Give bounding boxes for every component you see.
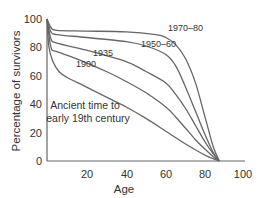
y-tick-60: 60: [30, 70, 42, 82]
label-ancient-line1: Ancient time to: [50, 99, 120, 111]
x-tick-80: 80: [199, 168, 211, 180]
y-tick-20: 20: [30, 127, 42, 139]
y-tick-40: 40: [30, 98, 42, 110]
y-tick-100: 100: [24, 13, 42, 25]
curve-1935: [47, 19, 219, 161]
survivorship-chart: 0 20 40 60 80 100 20 40 60 80 100 Age Pe…: [0, 0, 270, 198]
curve-1970-80: [47, 19, 219, 161]
label-ancient-line2: early 19th century: [46, 112, 130, 124]
y-tick-80: 80: [30, 41, 42, 53]
curve-1950-60: [47, 19, 219, 161]
x-tick-40: 40: [121, 168, 133, 180]
x-tick-20: 20: [81, 168, 93, 180]
curve-1900: [47, 19, 219, 161]
x-tick-100: 100: [234, 168, 252, 180]
label-1950-60: 1950–60: [141, 39, 176, 49]
label-1935: 1935: [93, 48, 113, 58]
label-1900: 1900: [76, 59, 96, 69]
y-axis-label: Percentage of survivors: [10, 30, 22, 151]
x-tick-60: 60: [160, 168, 172, 180]
y-tick-0: 0: [36, 155, 42, 167]
curve-ancient-time-to-early-19th-century: [47, 19, 219, 161]
survival-curves: [47, 19, 219, 161]
x-axis-label: Age: [114, 183, 134, 195]
label-1970-80: 1970–80: [168, 23, 203, 33]
